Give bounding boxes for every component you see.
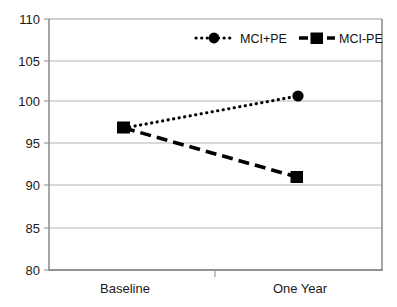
- legend-square-marker-icon: [311, 33, 324, 45]
- legend-entry-mci-minus-pe[interactable]: MCI-PE: [299, 32, 383, 46]
- plot-area-background: [49, 19, 382, 271]
- y-tick-label-85: 85: [26, 221, 40, 236]
- y-tick-label-110: 110: [19, 12, 40, 27]
- y-tick-label-95: 95: [26, 136, 40, 151]
- y-tick-label-105: 105: [18, 54, 40, 69]
- data-point-mci-minus-pe-one-year: [291, 171, 304, 183]
- line-chart: 110 105 100 95 90 85 80 Baseline One Yea…: [0, 0, 397, 307]
- data-point-baseline-shared-marker: [117, 122, 130, 134]
- data-point-mci-plus-pe-one-year: [292, 90, 303, 101]
- chart-container: 110 105 100 95 90 85 80 Baseline One Yea…: [0, 0, 397, 307]
- y-tick-label-100: 100: [18, 94, 40, 109]
- x-axis-label-baseline: Baseline: [100, 281, 150, 296]
- legend-circle-marker-icon: [209, 33, 220, 44]
- y-tick-label-80: 80: [26, 263, 40, 278]
- legend-label-mci-plus-pe: MCI+PE: [240, 32, 287, 46]
- y-axis-ticks: [44, 19, 49, 270]
- y-tick-label-90: 90: [26, 178, 40, 193]
- legend-label-mci-minus-pe: MCI-PE: [339, 32, 383, 46]
- x-axis-label-one-year: One Year: [273, 281, 328, 296]
